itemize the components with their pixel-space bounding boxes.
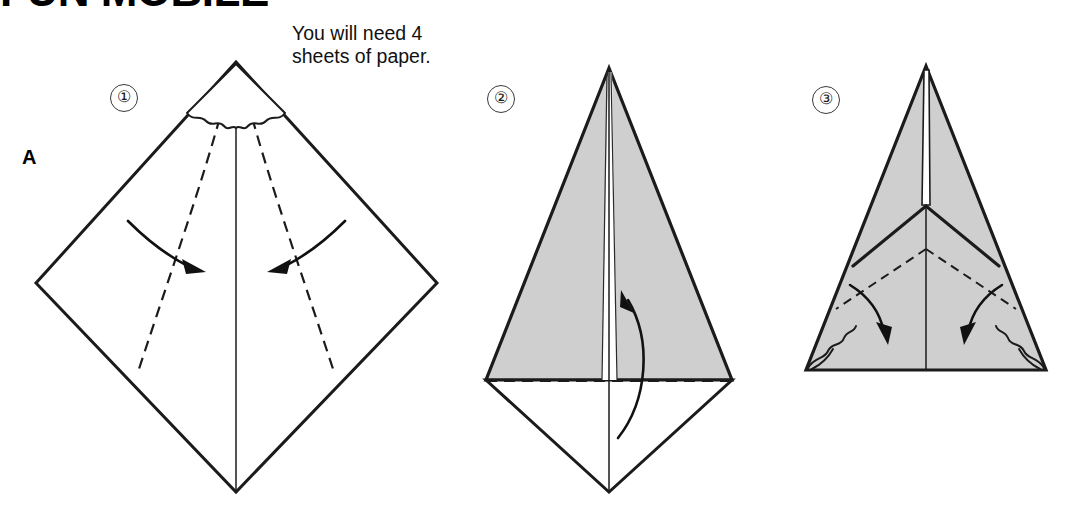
origami-instruction-page: FUN MOBILE You will need 4 sheets of pap…	[0, 0, 1071, 526]
step-3-diagram	[0, 0, 1071, 526]
step-3-center-seam-strip	[922, 70, 930, 205]
